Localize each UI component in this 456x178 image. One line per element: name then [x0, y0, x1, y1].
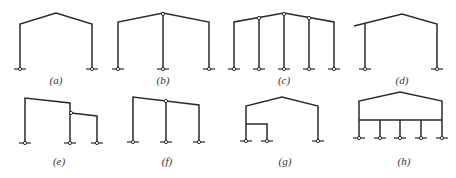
frame-h: (h) — [353, 92, 448, 168]
frame-a: (a) — [14, 13, 98, 87]
frame-b: (b) — [112, 12, 215, 87]
frame-f: (f) — [127, 97, 205, 168]
label-a: (a) — [50, 74, 63, 87]
frame-e: (e) — [19, 98, 103, 168]
label-g: (g) — [279, 155, 292, 168]
label-e: (e) — [53, 155, 66, 168]
frame-c: (c) — [228, 12, 340, 87]
label-h: (h) — [398, 155, 411, 168]
portal-frames-diagram: (a) (b) (c) — [0, 0, 456, 178]
label-d: (d) — [396, 74, 409, 87]
label-b: (b) — [157, 74, 170, 87]
label-f: (f) — [162, 155, 173, 168]
label-c: (c) — [278, 74, 291, 87]
frame-g: (g) — [240, 97, 324, 168]
frame-d: (d) — [354, 14, 443, 87]
